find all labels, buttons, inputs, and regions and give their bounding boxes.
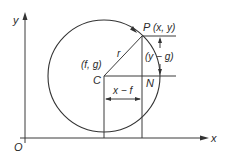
y-axis bbox=[23, 12, 28, 143]
horizontal-distance-label: x − f bbox=[112, 85, 133, 96]
x-f-left-arrow-icon bbox=[105, 97, 111, 101]
point-p-label: P bbox=[143, 21, 151, 33]
point-p-coords: (x, y) bbox=[153, 22, 175, 33]
point-n-label: N bbox=[146, 77, 154, 89]
y-axis-label: y bbox=[12, 14, 20, 26]
x-f-right-arrow-icon bbox=[135, 97, 141, 101]
radius-line bbox=[104, 36, 142, 76]
y-axis-arrow-icon bbox=[23, 12, 28, 20]
origin-label: O bbox=[14, 141, 23, 153]
vertical-distance-label: (y − g) bbox=[145, 51, 174, 62]
x-axis-arrow-icon bbox=[200, 136, 209, 141]
radius-label: r bbox=[117, 48, 121, 59]
diagram-canvas: y x O (f, g) C P (x, y) N r (y − g) x − … bbox=[0, 0, 228, 160]
y-g-up-arrow-icon bbox=[158, 37, 162, 43]
centre-label: C bbox=[93, 74, 101, 86]
x-axis bbox=[20, 136, 209, 141]
x-axis-label: x bbox=[210, 132, 217, 144]
y-g-down-arrow-icon bbox=[158, 69, 162, 75]
circle-diagram: y x O (f, g) C P (x, y) N r (y − g) x − … bbox=[0, 0, 228, 160]
centre-coords-label: (f, g) bbox=[81, 59, 102, 70]
